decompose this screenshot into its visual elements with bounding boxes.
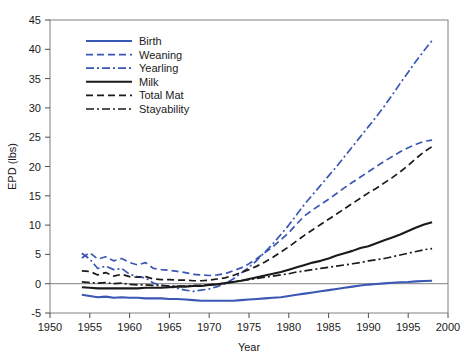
y-tick-label: 40 — [29, 43, 41, 55]
data-series-group — [82, 41, 432, 301]
y-tick-label: 5 — [35, 248, 41, 260]
chart-legend: BirthWeaningYearlingMilkTotal MatStayabi… — [86, 35, 190, 115]
y-tick-label: 25 — [29, 131, 41, 143]
y-tick-label: -5 — [31, 307, 41, 319]
x-axis-ticks: 1950195519601965197019751980198519901995… — [38, 313, 460, 333]
legend-label-birth: Birth — [139, 35, 162, 47]
y-tick-label: 20 — [29, 161, 41, 173]
x-tick-label: 1985 — [316, 321, 340, 333]
x-tick-label: 2000 — [436, 321, 460, 333]
legend-label-total-mat: Total Mat — [139, 89, 184, 101]
x-tick-label: 1955 — [78, 321, 102, 333]
series-line-milk — [82, 222, 432, 288]
y-tick-label: 45 — [29, 14, 41, 26]
y-tick-label: 30 — [29, 102, 41, 114]
series-line-weaning — [82, 140, 432, 275]
y-tick-label: 15 — [29, 190, 41, 202]
x-tick-label: 1965 — [157, 321, 181, 333]
y-axis-ticks: -5051015202530354045 — [29, 14, 50, 319]
x-tick-label: 1995 — [396, 321, 420, 333]
x-tick-label: 1980 — [277, 321, 301, 333]
y-tick-label: 0 — [35, 278, 41, 290]
x-axis-title: Year — [238, 341, 261, 353]
legend-label-yearling: Yearling — [139, 62, 178, 74]
legend-label-stayability: Stayability — [139, 103, 190, 115]
series-line-yearling — [82, 41, 432, 292]
y-tick-label: 35 — [29, 73, 41, 85]
x-tick-label: 1970 — [197, 321, 221, 333]
x-tick-label: 1975 — [237, 321, 261, 333]
x-tick-label: 1990 — [356, 321, 380, 333]
epd-trend-chart: -5051015202530354045 1950195519601965197… — [0, 0, 464, 356]
x-tick-label: 1960 — [117, 321, 141, 333]
legend-label-weaning: Weaning — [139, 49, 182, 61]
series-line-stayability — [82, 249, 432, 287]
legend-label-milk: Milk — [139, 76, 159, 88]
y-tick-label: 10 — [29, 219, 41, 231]
y-axis-title: EPD (lbs) — [6, 143, 18, 190]
chart-canvas: -5051015202530354045 1950195519601965197… — [0, 0, 464, 356]
x-tick-label: 1950 — [38, 321, 62, 333]
